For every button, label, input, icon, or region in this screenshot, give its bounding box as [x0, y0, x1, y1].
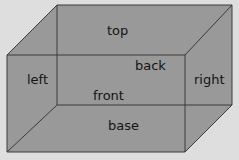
face-label-right: right	[194, 73, 225, 86]
face-label-front: front	[93, 89, 124, 102]
cuboid-diagram: top back left right front base	[0, 0, 239, 160]
face-label-back: back	[135, 59, 166, 72]
face-label-left: left	[27, 73, 48, 86]
face-label-base: base	[108, 119, 139, 132]
face-label-top: top	[107, 24, 128, 37]
